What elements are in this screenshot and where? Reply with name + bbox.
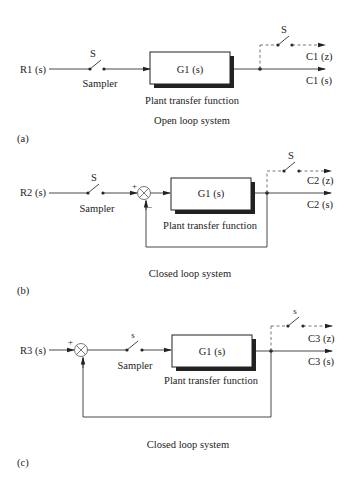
output-sampled-label: C2 (z) bbox=[307, 175, 334, 187]
sampler-switch-icon bbox=[88, 60, 105, 71]
diagram-tag: (b) bbox=[17, 285, 30, 297]
output-switch-label: s bbox=[293, 306, 297, 316]
output-switch-label: S bbox=[288, 150, 294, 161]
output-continuous-label: C2 (s) bbox=[307, 199, 333, 211]
output-continuous-label: C3 (s) bbox=[308, 356, 334, 368]
sampler-label: Sampler bbox=[118, 360, 153, 371]
output-sampled-label: C3 (z) bbox=[308, 333, 335, 345]
output-sampled-label: C1 (z) bbox=[306, 51, 333, 63]
input-label-r1: R1 (s) bbox=[20, 64, 46, 76]
sampled-data-systems-figure: R1 (s) S Sampler G1 (s) Plant transfer f… bbox=[0, 0, 351, 483]
diagram-tag: (c) bbox=[17, 457, 29, 469]
block-label: G1 (s) bbox=[198, 188, 225, 200]
diagram-title: Closed loop system bbox=[147, 439, 229, 450]
output-switch-icon bbox=[286, 317, 304, 328]
diagram-c-closed-loop: R3 (s) + s Sampler G1 (s) Plant transfer… bbox=[17, 306, 335, 469]
block-label: G1 (s) bbox=[199, 346, 226, 358]
sampler-switch-label: S bbox=[90, 48, 96, 59]
block-caption: Plant transfer function bbox=[163, 220, 258, 231]
output-continuous-label: C1 (s) bbox=[306, 75, 332, 87]
sampler-switch-icon bbox=[86, 184, 104, 195]
block-caption: Plant transfer function bbox=[145, 95, 240, 106]
summing-junction-icon bbox=[75, 344, 88, 357]
diagram-title: Closed loop system bbox=[149, 268, 231, 279]
diagram-title: Open loop system bbox=[154, 115, 230, 126]
sum-plus-sign: + bbox=[132, 181, 137, 191]
output-switch-icon bbox=[276, 36, 293, 47]
input-label-r2: R2 (s) bbox=[20, 187, 46, 199]
sum-plus-sign: + bbox=[68, 337, 73, 347]
output-switch-icon bbox=[282, 162, 300, 173]
input-label-r3: R3 (s) bbox=[20, 345, 46, 357]
sampler-switch-icon bbox=[125, 341, 143, 352]
summing-junction-icon bbox=[138, 187, 151, 200]
block-caption: Plant transfer function bbox=[164, 375, 259, 386]
block-label: G1 (s) bbox=[177, 64, 204, 76]
sampler-label: Sampler bbox=[80, 203, 115, 214]
output-switch-label: S bbox=[281, 24, 287, 35]
diagram-tag: (a) bbox=[17, 133, 29, 145]
sum-minus-sign: − bbox=[147, 202, 152, 212]
diagram-b-closed-loop: R2 (s) S Sampler + − G1 (s) Plant transf… bbox=[17, 150, 334, 297]
sampler-switch-label: s bbox=[131, 330, 135, 340]
sampler-switch-label: S bbox=[91, 172, 97, 183]
diagram-a-open-loop: R1 (s) S Sampler G1 (s) Plant transfer f… bbox=[17, 24, 333, 145]
sampler-label: Sampler bbox=[83, 78, 118, 89]
